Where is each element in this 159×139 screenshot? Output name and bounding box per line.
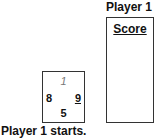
card-bottom-number: 5 [43,108,84,119]
score-box: Score [106,17,154,123]
player-label: Player 1 [106,1,152,14]
status-message: Player 1 starts. [1,124,86,138]
card-left-number: 8 [46,93,52,104]
card-right-number: 9 [75,93,81,104]
score-title: Score [107,22,153,36]
number-card[interactable]: 1 8 9 5 [42,71,85,123]
card-top-number: 1 [43,76,84,87]
